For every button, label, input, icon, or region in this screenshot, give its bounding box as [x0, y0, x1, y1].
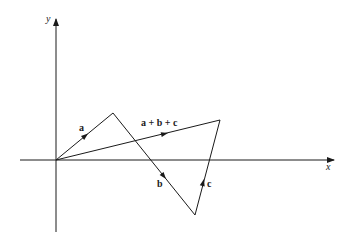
vector-c-label: c	[207, 178, 212, 189]
vector-a-label: a	[79, 122, 84, 133]
vector-c	[195, 120, 220, 215]
vector-b-label: b	[157, 178, 163, 189]
arrowhead-icon	[200, 178, 207, 186]
y-axis-label: y	[45, 13, 51, 24]
vector-b	[113, 113, 195, 215]
x-axis-label: x	[325, 161, 331, 172]
vector-addition-diagram: x y a b c a + b + c	[0, 0, 348, 240]
arrowhead-icon	[161, 131, 169, 138]
vector-sum-label: a + b + c	[141, 117, 178, 128]
